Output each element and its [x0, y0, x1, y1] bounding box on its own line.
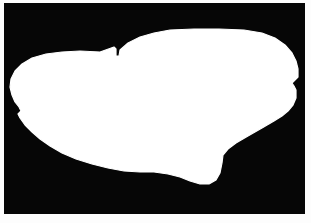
binary-mask-svg [4, 3, 305, 214]
figure-root: car [0, 0, 311, 223]
mask-canvas [4, 3, 305, 214]
